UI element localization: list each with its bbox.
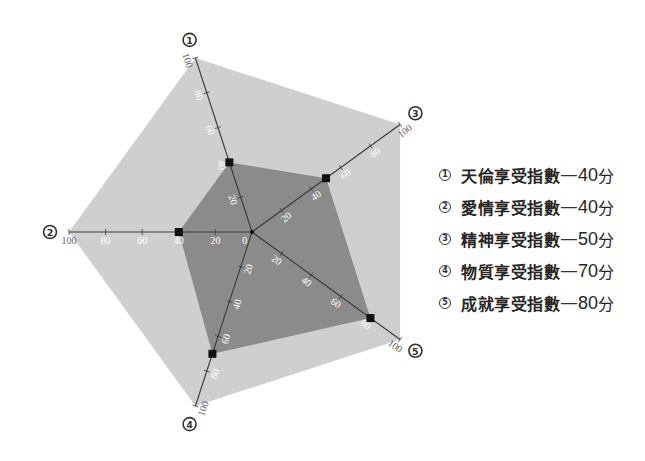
tick-label: 20 [210, 235, 220, 246]
data-point-marker [225, 158, 233, 166]
tick-label: 40 [174, 235, 184, 246]
circled-number-icon: 2 [439, 201, 451, 213]
legend-label: 愛情享受指數 [461, 195, 560, 219]
axis-number-label: 4 [186, 419, 193, 430]
circled-number-icon: 3 [439, 233, 451, 245]
legend-unit: 分 [598, 163, 614, 187]
circled-number-icon: 1 [439, 169, 451, 181]
legend-separator: — [561, 294, 577, 312]
legend-item: 4 物質享受指數 — 70 分 [439, 255, 614, 287]
legend-unit: 分 [598, 291, 614, 315]
legend-label: 精神享受指數 [461, 227, 560, 251]
tick-label: 60 [137, 235, 147, 246]
circled-number-icon: 5 [439, 297, 451, 309]
legend-unit: 分 [598, 227, 614, 251]
legend-separator: — [561, 230, 577, 248]
axis-number-badge: 4 [183, 418, 196, 431]
legend-item: 2 愛情享受指數 — 40 分 [439, 191, 614, 223]
legend-separator: — [561, 166, 577, 184]
data-point-marker [175, 228, 183, 236]
legend-label: 成就享受指數 [461, 291, 560, 315]
legend-score: 40 [578, 197, 598, 218]
data-point-marker [322, 174, 330, 182]
legend-unit: 分 [598, 195, 614, 219]
data-point-marker [208, 350, 216, 358]
axis-number-label: 5 [412, 346, 419, 357]
legend-label: 物質享受指數 [461, 259, 560, 283]
axis-number-label: 3 [412, 108, 419, 119]
legend-separator: — [561, 198, 577, 216]
axis-number-badge: 3 [409, 107, 422, 120]
radar-chart-figure: 2040608010002040608010020406080100204060… [0, 0, 645, 461]
tick-label: 100 [62, 235, 77, 246]
axis-number-badge: 2 [44, 226, 57, 239]
data-point-marker [366, 314, 374, 322]
center-dot [250, 230, 254, 234]
legend-item: 3 精神享受指數 — 50 分 [439, 223, 614, 255]
circled-number-icon: 4 [439, 265, 451, 277]
legend-unit: 分 [598, 259, 614, 283]
legend-label: 天倫享受指數 [461, 163, 560, 187]
axis-number-label: 1 [186, 35, 193, 46]
legend-separator: — [561, 262, 577, 280]
legend: 1 天倫享受指數 — 40 分 2 愛情享受指數 — 40 分 3 精神享受指數… [439, 159, 614, 319]
legend-score: 70 [578, 261, 598, 282]
tick-label: 80 [101, 235, 111, 246]
legend-score: 50 [578, 229, 598, 250]
legend-item: 1 天倫享受指數 — 40 分 [439, 159, 614, 191]
axis-number-badge: 5 [409, 344, 422, 357]
axis-number-badge: 1 [183, 33, 196, 46]
legend-score: 80 [578, 293, 598, 314]
tick-label: 0 [242, 235, 247, 246]
legend-score: 40 [578, 165, 598, 186]
legend-item: 5 成就享受指數 — 80 分 [439, 287, 614, 319]
axis-number-label: 2 [47, 227, 54, 238]
